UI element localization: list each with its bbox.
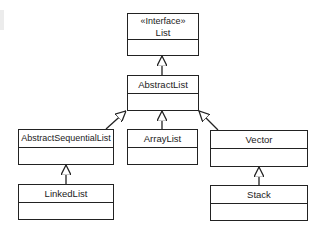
class-list: «Interface» List	[127, 13, 199, 56]
class-abstractsequentiallist-header: AbstractSequentialList	[19, 130, 113, 148]
class-abstractlist-header: AbstractList	[128, 76, 198, 94]
class-abstractlist: AbstractList	[127, 75, 199, 111]
class-list-stereotype: «Interface»	[140, 16, 185, 27]
class-list-name: List	[156, 27, 171, 38]
class-stack-header: Stack	[211, 186, 307, 204]
class-vector: Vector	[210, 130, 308, 167]
class-linkedlist: LinkedList	[18, 184, 114, 220]
class-stack-name: Stack	[247, 189, 271, 200]
class-linkedlist-header: LinkedList	[19, 185, 113, 203]
class-vector-header: Vector	[211, 131, 307, 149]
class-arraylist-name: ArrayList	[144, 133, 181, 144]
arrow-vector-to-abstractlist	[199, 111, 218, 130]
class-stack: Stack	[210, 185, 308, 221]
class-arraylist-header: ArrayList	[128, 130, 197, 148]
arrow-abstractsequentiallist-to-abstractlist	[106, 111, 126, 129]
class-abstractlist-name: AbstractList	[138, 79, 188, 90]
class-vector-name: Vector	[246, 134, 273, 145]
class-arraylist: ArrayList	[127, 129, 198, 165]
class-abstractsequentiallist-name: AbstractSequentialList	[21, 133, 111, 144]
class-linkedlist-name: LinkedList	[45, 188, 88, 199]
class-abstractsequentiallist: AbstractSequentialList	[18, 129, 114, 165]
class-list-header: «Interface» List	[128, 14, 198, 40]
